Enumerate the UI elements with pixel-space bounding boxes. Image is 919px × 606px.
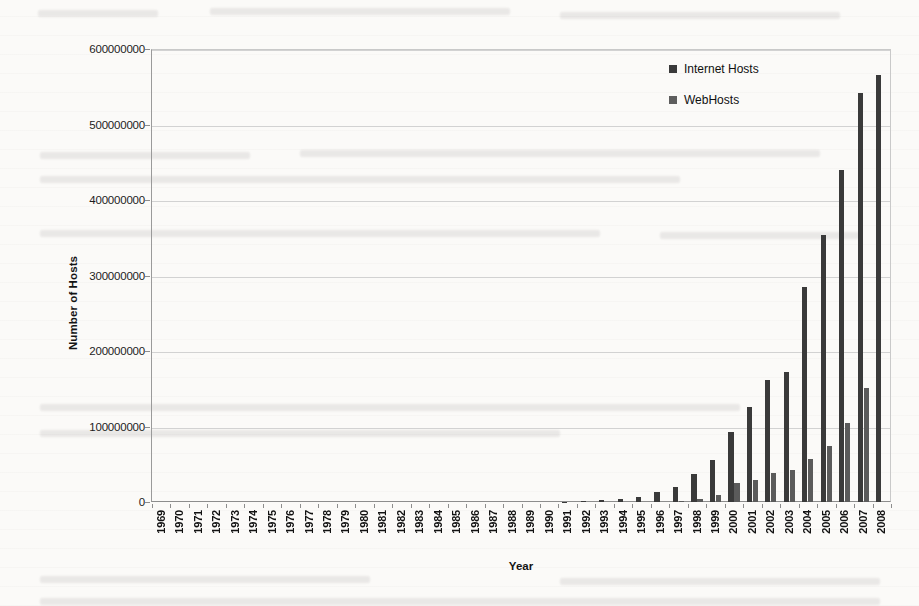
bar-group (558, 49, 576, 502)
x-tick-label: 1978 (322, 510, 333, 534)
bar-group (688, 49, 706, 502)
legend-item: WebHosts (669, 93, 759, 107)
bar-group (540, 49, 558, 502)
x-tick-label: 1973 (230, 510, 241, 534)
x-tick-label: 1982 (396, 510, 407, 534)
bar-internet-hosts (784, 372, 789, 502)
y-tick-mark (145, 351, 150, 352)
y-tick-mark (145, 200, 150, 201)
bar-group (337, 49, 355, 502)
bar-internet-hosts (802, 287, 807, 502)
bar-group (300, 49, 318, 502)
x-tick-label: 1974 (248, 510, 259, 534)
x-tick-mark (780, 504, 781, 508)
bar-internet-hosts (858, 93, 863, 502)
x-tick-mark (466, 504, 467, 508)
x-tick-label: 2007 (858, 510, 869, 534)
x-tick-label: 1988 (507, 510, 518, 534)
y-tick-label: 100000000 (89, 421, 145, 433)
x-tick-mark (669, 504, 670, 508)
x-tick-mark (725, 504, 726, 508)
bar-web-hosts (679, 501, 684, 502)
x-tick-label: 1997 (673, 510, 684, 534)
x-tick-mark (688, 504, 689, 508)
x-tick-mark (263, 504, 264, 508)
x-tick-mark (485, 504, 486, 508)
bar-group (226, 49, 244, 502)
y-tick-label: 200000000 (89, 345, 145, 357)
x-tick-mark (355, 504, 356, 508)
x-tick-label: 1986 (470, 510, 481, 534)
x-tick-label: 1969 (156, 510, 167, 534)
x-tick-label: 2005 (821, 510, 832, 534)
x-tick-mark (540, 504, 541, 508)
bar-web-hosts (845, 423, 850, 502)
bar-internet-hosts (710, 460, 715, 502)
x-tick-label: 2008 (876, 510, 887, 534)
x-tick-label: 2000 (728, 510, 739, 534)
x-tick-label: 1970 (174, 510, 185, 534)
bar-group (411, 49, 429, 502)
x-tick-mark (226, 504, 227, 508)
x-tick-mark (207, 504, 208, 508)
legend-label: Internet Hosts (684, 62, 759, 76)
bar-group (762, 49, 780, 502)
bar-internet-hosts (839, 170, 844, 502)
x-tick-mark (706, 504, 707, 508)
bar-group (706, 49, 724, 502)
bar-web-hosts (753, 480, 758, 502)
y-tick-mark (145, 427, 150, 428)
bar-internet-hosts (618, 499, 623, 502)
x-axis-tick-labels: 1969197019711972197319741975197619771978… (152, 504, 891, 556)
bar-group (743, 49, 761, 502)
bar-web-hosts (771, 473, 776, 502)
x-tick-mark (318, 504, 319, 508)
bar-internet-hosts (765, 380, 770, 502)
x-tick-label: 1992 (581, 510, 592, 534)
x-tick-mark (503, 504, 504, 508)
bar-group (466, 49, 484, 502)
bar-group (429, 49, 447, 502)
y-tick-label: 600000000 (89, 43, 145, 55)
bar-internet-hosts (747, 407, 752, 502)
x-tick-label: 1990 (544, 510, 555, 534)
chart-legend: Internet HostsWebHosts (669, 62, 759, 107)
x-tick-label: 1985 (451, 510, 462, 534)
bar-group (189, 49, 207, 502)
bar-group (651, 49, 669, 502)
bar-group (318, 49, 336, 502)
x-tick-mark (170, 504, 171, 508)
y-tick-mark (145, 502, 150, 503)
bar-group (244, 49, 262, 502)
legend-swatch-icon (669, 96, 677, 104)
bar-web-hosts (808, 459, 813, 502)
bar-group (263, 49, 281, 502)
bar-group (725, 49, 743, 502)
x-tick-label: 1977 (304, 510, 315, 534)
x-tick-mark (448, 504, 449, 508)
bar-web-hosts (716, 495, 721, 502)
legend-label: WebHosts (684, 93, 739, 107)
y-tick-label: 300000000 (89, 270, 145, 282)
x-tick-mark (595, 504, 596, 508)
x-tick-mark (189, 504, 190, 508)
x-tick-mark (392, 504, 393, 508)
bar-series-container (152, 49, 891, 502)
x-tick-label: 2002 (765, 510, 776, 534)
x-tick-mark (891, 504, 892, 508)
bar-group (522, 49, 540, 502)
bar-web-hosts (697, 499, 702, 502)
bar-group (614, 49, 632, 502)
bar-web-hosts (827, 446, 832, 502)
x-tick-label: 1993 (599, 510, 610, 534)
x-tick-label: 1987 (488, 510, 499, 534)
x-tick-label: 1996 (655, 510, 666, 534)
bar-group (485, 49, 503, 502)
x-tick-label: 1975 (267, 510, 278, 534)
x-tick-mark (854, 504, 855, 508)
x-tick-mark (558, 504, 559, 508)
y-tick-label: 500000000 (89, 119, 145, 131)
bar-web-hosts (790, 470, 795, 502)
legend-item: Internet Hosts (669, 62, 759, 76)
x-tick-mark (411, 504, 412, 508)
